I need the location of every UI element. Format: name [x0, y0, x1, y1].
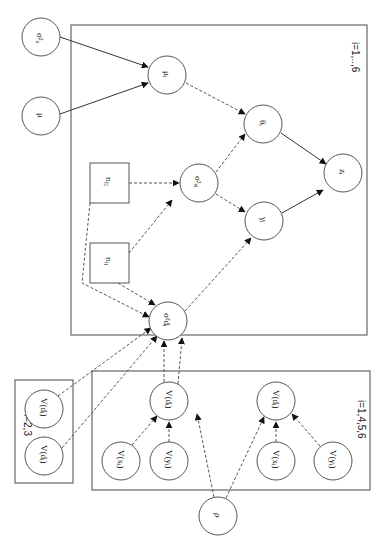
node-gamma-i: γᵢ — [245, 202, 283, 240]
node-label: γᵢ — [259, 216, 269, 223]
node-rho: ρ — [199, 497, 237, 535]
node-n-i1: nᵢ₁ — [90, 243, 129, 283]
node-label: θᵢ — [258, 120, 268, 126]
node-mu-i: μᵢ — [148, 56, 186, 94]
node-label: ρ — [213, 513, 223, 518]
node-label: σ²ₑᵢ — [193, 176, 203, 188]
node-v-d-plate23-top: V(dᵢ) — [25, 390, 63, 428]
node-v-d-plate23-bottom: V(dᵢ) — [25, 437, 63, 475]
node-label: zᵢ — [338, 169, 348, 175]
node-label: V(xᵢ) — [116, 450, 126, 468]
node-v-y-right: V(yᵢ) — [314, 442, 352, 480]
plate-i-1-4-5-6-label: i=1,4,5,6 — [356, 400, 367, 439]
node-label: V(dᵢ) — [39, 398, 49, 416]
node-v-d-left: V(dᵢ) — [150, 382, 188, 420]
node-v-d-right: V(dᵢ) — [257, 382, 295, 420]
node-label: nᵢ₂ — [104, 177, 114, 186]
node-label: μ — [36, 113, 46, 118]
node-label: σ²dᵢ — [162, 313, 172, 327]
node-label: V(dᵢ) — [39, 445, 49, 463]
node-label: V(yᵢ) — [164, 450, 174, 468]
node-label: V(xᵢ) — [271, 450, 281, 468]
diagram-canvas: i=1,..,6 i=2,3 i=1,4,5,6 σ²ₐ μ — [0, 0, 386, 553]
plate-main-label: i=1,..,6 — [350, 42, 361, 73]
node-label: σ²ₐ — [35, 33, 45, 44]
node-v-y-left: V(yᵢ) — [150, 442, 188, 480]
node-n-i2: nᵢ₂ — [90, 163, 129, 203]
node-label: V(yᵢ) — [328, 450, 338, 468]
node-label: μᵢ — [162, 71, 172, 78]
node-label: V(dᵢ) — [271, 390, 281, 408]
node-theta-i: θᵢ — [244, 105, 282, 143]
node-v-x-left: V(xᵢ) — [102, 442, 140, 480]
node-sigma2-di: σ²dᵢ — [149, 302, 187, 340]
node-sigma2-ei: σ²ₑᵢ — [180, 164, 218, 202]
node-mu: μ — [22, 97, 60, 135]
node-v-x-right: V(xᵢ) — [257, 442, 295, 480]
node-label: V(dᵢ) — [164, 390, 174, 408]
node-z-i: zᵢ — [324, 154, 362, 192]
node-sigma2-a: σ²ₐ — [22, 18, 60, 56]
node-label: nᵢ₁ — [104, 257, 114, 266]
